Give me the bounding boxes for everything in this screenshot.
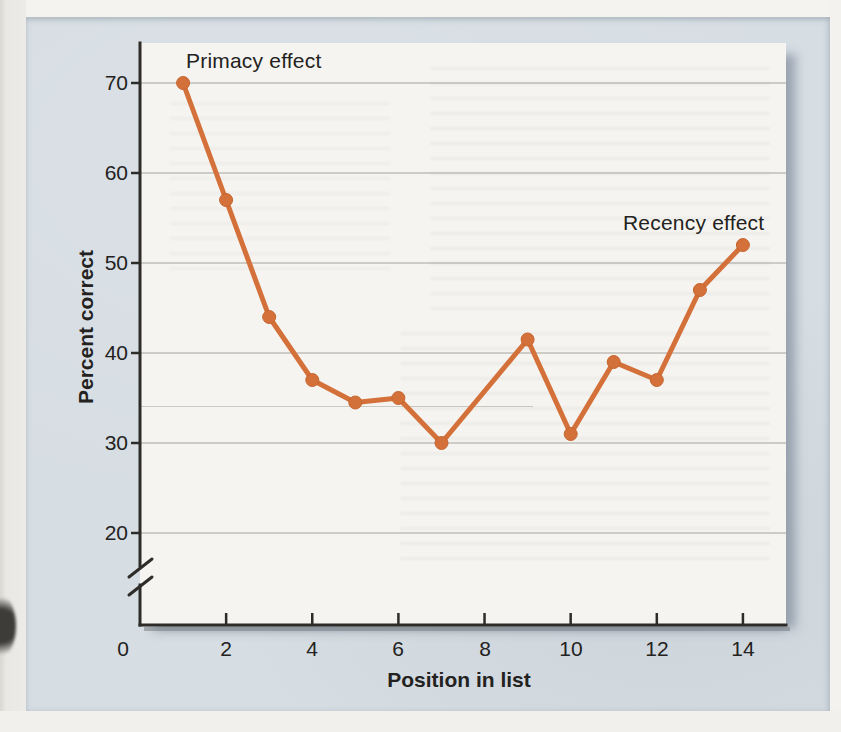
annotation-recency-effect: Recency effect bbox=[623, 211, 764, 235]
y-tick-label: 70 bbox=[68, 70, 128, 96]
page-margin-top bbox=[0, 0, 841, 17]
print-bleedthrough-texture bbox=[400, 330, 770, 560]
x-tick-label: 0 bbox=[93, 636, 153, 662]
x-tick-label: 4 bbox=[282, 636, 342, 662]
page-margin-right bbox=[830, 0, 841, 732]
x-tick-label: 10 bbox=[541, 636, 601, 662]
plot-area bbox=[140, 43, 786, 625]
y-tick-label: 20 bbox=[68, 520, 128, 546]
page-margin-bottom bbox=[0, 711, 841, 732]
x-tick-label: 12 bbox=[627, 636, 687, 662]
scanned-textbook-figure: 70605040302002468101214 Primacy effect R… bbox=[0, 0, 841, 732]
y-tick-label: 30 bbox=[68, 430, 128, 456]
print-bleedthrough-texture bbox=[430, 60, 770, 310]
y-tick-label: 60 bbox=[68, 160, 128, 186]
x-tick-label: 8 bbox=[455, 636, 515, 662]
print-bleedthrough-texture bbox=[170, 90, 390, 270]
y-axis-title: Percent correct bbox=[74, 250, 98, 404]
x-tick-label: 2 bbox=[196, 636, 256, 662]
x-axis-title: Position in list bbox=[387, 668, 531, 692]
annotation-primacy-effect: Primacy effect bbox=[186, 49, 321, 73]
scan-artifact-line bbox=[141, 406, 533, 407]
x-tick-label: 14 bbox=[713, 636, 773, 662]
x-tick-label: 6 bbox=[368, 636, 428, 662]
